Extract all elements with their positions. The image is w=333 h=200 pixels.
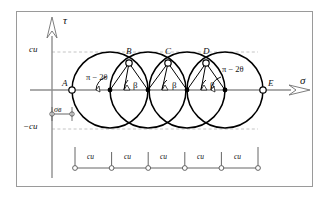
circle-center-4	[223, 88, 228, 93]
scale-segment-label-4: cи	[234, 152, 241, 161]
scale-segment-label-3: cи	[197, 152, 204, 161]
sigma-v-dimension-label: σв	[54, 105, 61, 114]
scale-bar-node	[219, 166, 224, 171]
circle-center-2	[146, 88, 151, 93]
sigma-axis-label: σ	[300, 74, 305, 86]
tau-axis-label: τ	[63, 14, 67, 26]
point-label-E: E	[268, 78, 274, 88]
scale-segment-label-1: cи	[124, 152, 131, 161]
tau-tick-label-cu-negative: −cи	[23, 121, 38, 131]
angle-label-beta-2: β	[172, 80, 177, 90]
scale-segment-label-2: cи	[160, 152, 167, 161]
scale-bar-node	[109, 166, 114, 171]
mohr-circle-diagram	[0, 0, 333, 200]
circle-center-1	[108, 88, 113, 93]
point-marker-A	[69, 87, 75, 93]
scale-bar-node	[256, 166, 261, 171]
angle-label-pi-minus-2theta-right: π − 2θ	[222, 64, 244, 74]
point-label-A: A	[62, 78, 68, 88]
point-marker-C	[165, 60, 171, 66]
angle-label-beta-1: β	[133, 80, 138, 90]
tau-tick-label-cu-positive: cи	[29, 44, 38, 54]
point-marker-B	[126, 60, 132, 66]
angle-label-pi-minus-2theta-left: π − 2θ	[86, 72, 108, 82]
scale-bar-node	[182, 166, 187, 171]
scale-segment-label-0: cи	[87, 152, 94, 161]
scale-bar-node	[146, 166, 151, 171]
circle-center-3	[185, 88, 190, 93]
point-marker-E	[260, 87, 266, 93]
scale-bar-node	[73, 166, 78, 171]
point-label-C: C	[165, 46, 171, 56]
point-marker-D	[203, 60, 209, 66]
angle-label-beta-3: β	[210, 80, 215, 90]
point-label-D: D	[203, 46, 210, 56]
point-label-B: B	[126, 46, 132, 56]
